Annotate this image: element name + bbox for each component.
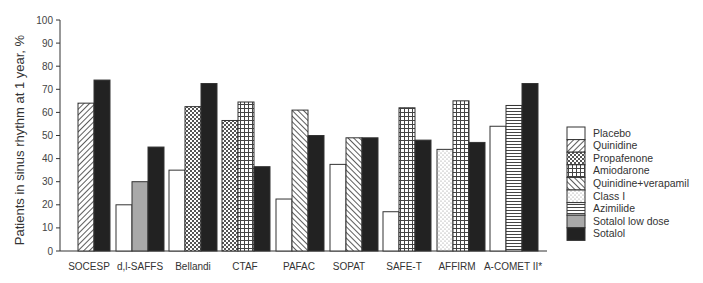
legend-label: Propafenone — [593, 152, 653, 164]
bar — [490, 126, 506, 251]
y-tick-label: 30 — [42, 176, 54, 187]
bar — [308, 136, 324, 252]
legend-label: Azimilide — [593, 202, 635, 214]
legend-item: Amiodarone — [567, 164, 650, 177]
y-tick-label: 100 — [36, 15, 53, 26]
bar-group — [222, 102, 270, 251]
y-tick-label: 40 — [42, 153, 54, 164]
y-tick-label: 80 — [42, 61, 54, 72]
bar — [238, 102, 254, 251]
bar — [148, 147, 164, 251]
bar — [78, 103, 94, 251]
legend-label: Quinidine — [593, 139, 638, 151]
legend-swatch — [567, 177, 585, 190]
bar-group — [490, 84, 538, 251]
x-tick-label: d,l-SAFFS — [117, 261, 163, 272]
bar — [276, 199, 292, 251]
y-axis: 0102030405060708090100 — [36, 15, 60, 257]
bar — [453, 101, 469, 251]
bar — [132, 182, 148, 251]
y-tick-label: 10 — [42, 222, 54, 233]
x-tick-label: SOPAT — [333, 261, 365, 272]
legend-swatch — [567, 140, 585, 153]
bar — [506, 105, 522, 251]
category-labels: SOCESPd,l-SAFFSBellandiCTAFPAFACSOPATSAF… — [68, 261, 542, 272]
bar — [362, 138, 378, 251]
bar — [437, 149, 453, 251]
x-tick-label: Bellandi — [175, 261, 211, 272]
y-tick-label: 20 — [42, 199, 54, 210]
legend-label: Class I — [593, 190, 625, 202]
legend-item: Placebo — [567, 127, 631, 140]
legend-item: Sotalol low dose — [567, 215, 670, 228]
legend-swatch — [567, 228, 585, 241]
x-tick-label: AFFIRM — [438, 261, 475, 272]
bar-group — [276, 110, 324, 251]
legend-swatch — [567, 165, 585, 178]
bar-chart: Patients in sinus rhythm at 1 year, % 01… — [0, 0, 703, 283]
legend-label: Placebo — [593, 127, 631, 139]
legend-item: Azimilide — [567, 202, 635, 215]
y-tick-label: 60 — [42, 107, 54, 118]
bar — [201, 84, 217, 251]
legend-swatch — [567, 152, 585, 165]
bar-group — [169, 84, 217, 251]
legend-label: Quinidine+verapamil — [593, 177, 689, 189]
bar — [169, 170, 185, 251]
bar-group — [437, 101, 485, 251]
legend-swatch — [567, 127, 585, 140]
y-axis-label: Patients in sinus rhythm at 1 year, % — [12, 34, 27, 245]
y-tick-label: 90 — [42, 38, 54, 49]
bar — [346, 138, 362, 251]
legend-item: Class I — [567, 190, 625, 203]
bar — [185, 107, 201, 251]
legend-item: Quinidine — [567, 139, 638, 152]
bar-group — [383, 108, 431, 251]
y-tick-label: 70 — [42, 84, 54, 95]
x-tick-label: SOCESP — [68, 261, 110, 272]
legend-swatch — [567, 215, 585, 228]
bars — [78, 80, 538, 251]
legend-label: Sotalol — [593, 227, 625, 239]
bar — [415, 140, 431, 251]
bar — [292, 110, 308, 251]
legend-item: Quinidine+verapamil — [567, 177, 689, 190]
bar — [116, 205, 132, 251]
bar-group — [330, 138, 378, 251]
legend: PlaceboQuinidinePropafenoneAmiodaroneQui… — [567, 127, 689, 241]
bar — [383, 212, 399, 251]
bar — [469, 142, 485, 251]
legend-item: Sotalol — [567, 227, 625, 240]
legend-label: Sotalol low dose — [593, 215, 670, 227]
bar-group — [78, 80, 110, 251]
bar — [94, 80, 110, 251]
bar — [222, 120, 238, 251]
y-tick-label: 50 — [42, 130, 54, 141]
y-tick-label: 0 — [47, 246, 53, 257]
x-tick-label: CTAF — [232, 261, 257, 272]
legend-swatch — [567, 203, 585, 216]
bar — [254, 167, 270, 251]
bar — [330, 164, 346, 251]
legend-swatch — [567, 190, 585, 203]
bar — [522, 84, 538, 251]
legend-label: Amiodarone — [593, 164, 650, 176]
bar — [399, 108, 415, 251]
legend-item: Propafenone — [567, 152, 653, 165]
x-tick-label: SAFE-T — [386, 261, 422, 272]
bar-group — [116, 147, 164, 251]
x-tick-label: PAFAC — [283, 261, 315, 272]
x-tick-label: A-COMET II* — [484, 261, 542, 272]
